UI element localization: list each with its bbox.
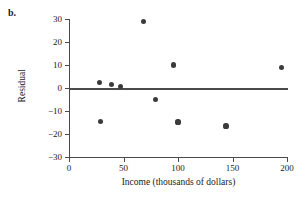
y-tick-label-wrap: 20: [20, 38, 62, 48]
y-tick-label: 30: [22, 15, 62, 24]
data-point: [223, 123, 228, 128]
x-tick-mark: [233, 158, 234, 162]
data-point: [153, 97, 158, 102]
y-tick-label-wrap: −30: [20, 153, 62, 163]
y-tick-mark: [65, 111, 69, 112]
y-tick-label-wrap: 0: [20, 84, 62, 94]
data-point: [97, 80, 102, 85]
y-tick-mark: [65, 19, 69, 20]
data-point: [98, 119, 103, 124]
residual-scatter-figure: b. Income (thousands of dollars) Residua…: [0, 0, 306, 200]
x-tick-label: 0: [49, 164, 89, 173]
data-point: [171, 62, 176, 67]
y-tick-label: −10: [22, 107, 62, 116]
x-tick-label: 100: [158, 164, 198, 173]
y-tick-label-wrap: 30: [20, 15, 62, 25]
y-tick-label: −30: [22, 153, 62, 162]
data-point: [109, 82, 114, 87]
data-point: [118, 84, 123, 89]
y-tick-label-wrap: −10: [20, 107, 62, 117]
y-tick-mark: [65, 134, 69, 135]
x-tick-mark: [69, 158, 70, 162]
x-tick-label: 200: [267, 164, 306, 173]
y-tick-mark: [65, 42, 69, 43]
plot-area: [69, 19, 287, 157]
y-tick-label-wrap: −20: [20, 130, 62, 140]
x-axis-title: Income (thousands of dollars): [69, 178, 288, 188]
data-point: [141, 19, 146, 24]
y-tick-label: 20: [22, 38, 62, 47]
x-tick-mark: [178, 158, 179, 162]
x-tick-label: 150: [213, 164, 253, 173]
y-tick-label: −20: [22, 130, 62, 139]
y-tick-label-wrap: 10: [20, 61, 62, 71]
y-tick-label: 0: [22, 84, 62, 93]
x-tick-label: 50: [104, 164, 144, 173]
x-tick-mark: [124, 158, 125, 162]
panel-label: b.: [8, 8, 16, 18]
data-point: [175, 119, 180, 124]
y-tick-mark: [65, 65, 69, 66]
x-tick-mark: [287, 158, 288, 162]
y-tick-label: 10: [22, 61, 62, 70]
y-tick-mark: [65, 88, 69, 89]
data-point: [279, 65, 284, 70]
